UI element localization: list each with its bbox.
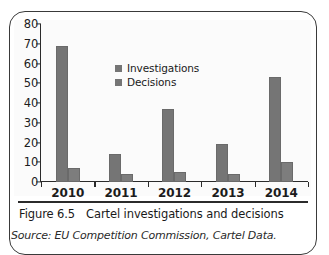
bar-decisions-2011 xyxy=(121,174,133,182)
bar-investigations-2013 xyxy=(216,144,228,182)
x-tick-label-2010: 2010 xyxy=(51,186,84,200)
figure-caption: Figure 6.5Cartel investigations and deci… xyxy=(19,207,284,221)
x-tick-label-2013: 2013 xyxy=(211,186,244,200)
caption-divider xyxy=(18,201,308,203)
bar-group xyxy=(148,24,201,182)
figure-source: Source: EU Competition Commission, Carte… xyxy=(11,229,277,242)
bar-group xyxy=(41,24,94,182)
legend-item: Decisions xyxy=(115,76,199,88)
bar-group xyxy=(201,24,254,182)
x-tick-label-2014: 2014 xyxy=(265,186,298,200)
x-tick-label-2012: 2012 xyxy=(158,186,191,200)
bar-decisions-2014 xyxy=(281,162,293,182)
legend-item: Investigations xyxy=(115,62,199,74)
legend-swatch-icon xyxy=(115,79,122,86)
bar-investigations-2012 xyxy=(162,109,174,182)
x-tick-mark xyxy=(308,182,309,187)
legend-label: Investigations xyxy=(127,62,199,74)
bar-investigations-2014 xyxy=(269,77,281,182)
figure-caption-number: Figure 6.5 xyxy=(19,207,75,221)
bar-chart: 01020304050607080 20102011201220132014 I… xyxy=(14,20,311,196)
figure-caption-title: Cartel investigations and decisions xyxy=(86,207,284,221)
bar-investigations-2010 xyxy=(56,46,68,182)
bar-decisions-2013 xyxy=(228,174,240,182)
bar-decisions-2010 xyxy=(68,168,80,182)
bars-area xyxy=(41,24,308,182)
bar-group xyxy=(94,24,147,182)
bar-investigations-2011 xyxy=(109,154,121,182)
legend-swatch-icon xyxy=(115,65,122,72)
x-tick-label-2011: 2011 xyxy=(105,186,138,200)
chart-legend: InvestigationsDecisions xyxy=(115,62,199,90)
x-axis: 20102011201220132014 xyxy=(41,186,308,202)
bar-decisions-2012 xyxy=(174,172,186,182)
legend-label: Decisions xyxy=(127,76,176,88)
bar-group xyxy=(255,24,308,182)
y-axis: 01020304050607080 xyxy=(14,24,38,182)
